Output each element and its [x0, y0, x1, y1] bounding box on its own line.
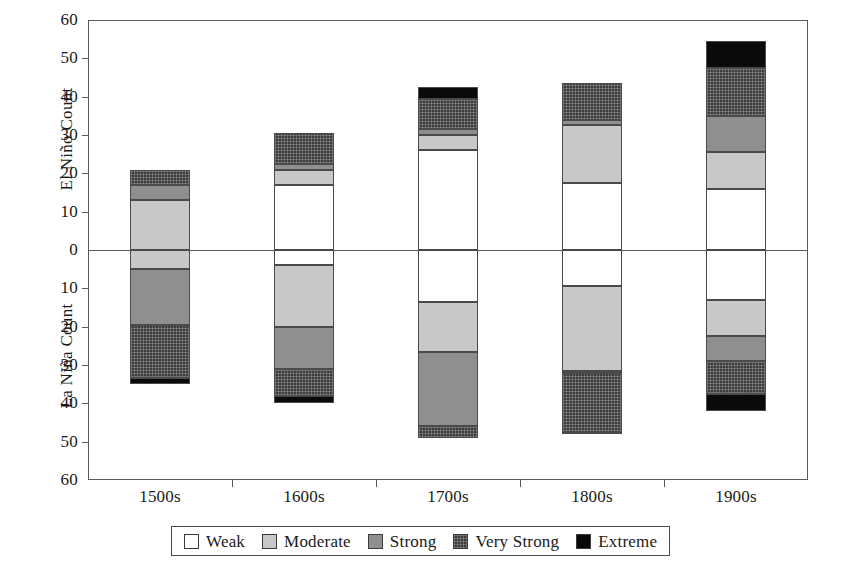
legend-label-verystrong: Very Strong: [475, 533, 559, 550]
y-tick-mark: [82, 135, 89, 136]
bar-segment-el-nino-strong[interactable]: [274, 164, 334, 170]
y-tick-label: 30: [40, 126, 78, 143]
y-tick-label: 0: [40, 241, 78, 258]
bar-segment-el-nino-moderate[interactable]: [130, 200, 190, 250]
bar-segment-la-nina-weak[interactable]: [706, 250, 766, 300]
y-tick-mark: [82, 327, 89, 328]
bar-column-1500s[interactable]: [130, 20, 190, 480]
bar-segment-el-nino-strong[interactable]: [418, 129, 478, 135]
y-tick-label: 20: [40, 164, 78, 181]
y-tick-label: 40: [40, 88, 78, 105]
chart-canvas: El Niño Count La Niña Count 605040302010…: [0, 0, 846, 576]
x-tick-label-1800s: 1800s: [532, 487, 652, 507]
bar-segment-el-nino-verystrong[interactable]: [706, 68, 766, 116]
bar-segment-el-nino-strong[interactable]: [562, 120, 622, 126]
bar-segment-la-nina-verystrong[interactable]: [274, 369, 334, 396]
legend-entry-moderate[interactable]: Moderate: [262, 533, 351, 550]
legend-label-extreme: Extreme: [598, 533, 657, 550]
bar-segment-la-nina-weak[interactable]: [562, 250, 622, 286]
legend-swatch-weak-icon: [184, 534, 199, 549]
bar-segment-la-nina-extreme[interactable]: [274, 396, 334, 404]
x-tick-mark: [376, 480, 377, 487]
y-tick-label: 60: [40, 11, 78, 28]
bar-segment-el-nino-verystrong[interactable]: [130, 170, 190, 185]
bar-segment-la-nina-verystrong[interactable]: [418, 426, 478, 438]
bar-segment-el-nino-weak[interactable]: [418, 150, 478, 250]
y-tick-label: 30: [40, 356, 78, 373]
bar-segment-la-nina-verystrong[interactable]: [130, 325, 190, 379]
bar-segment-el-nino-verystrong[interactable]: [562, 83, 622, 119]
bar-segment-el-nino-strong[interactable]: [706, 116, 766, 152]
bar-segment-la-nina-extreme[interactable]: [130, 378, 190, 384]
y-tick-mark: [82, 212, 89, 213]
bar-column-1800s[interactable]: [562, 20, 622, 480]
y-tick-label: 60: [40, 471, 78, 488]
y-tick-label: 10: [40, 203, 78, 220]
legend-entry-strong[interactable]: Strong: [368, 533, 437, 550]
y-tick-mark: [82, 403, 89, 404]
bar-segment-el-nino-weak[interactable]: [274, 185, 334, 250]
x-tick-label-1500s: 1500s: [100, 487, 220, 507]
bar-segment-la-nina-weak[interactable]: [274, 250, 334, 265]
y-tick-mark: [82, 365, 89, 366]
bar-column-1900s[interactable]: [706, 20, 766, 480]
y-tick-label: 10: [40, 279, 78, 296]
y-tick-mark: [82, 173, 89, 174]
bar-segment-la-nina-strong[interactable]: [274, 327, 334, 369]
bar-segment-la-nina-moderate[interactable]: [418, 302, 478, 352]
bar-segment-la-nina-extreme[interactable]: [706, 394, 766, 411]
bar-segment-el-nino-verystrong[interactable]: [418, 99, 478, 130]
legend-label-strong: Strong: [390, 533, 437, 550]
bar-segment-el-nino-weak[interactable]: [562, 183, 622, 250]
legend-entry-weak[interactable]: Weak: [184, 533, 245, 550]
legend-label-moderate: Moderate: [284, 533, 351, 550]
legend-entry-verystrong[interactable]: Very Strong: [453, 533, 559, 550]
legend-swatch-extreme-icon: [576, 534, 591, 549]
legend-entry-extreme[interactable]: Extreme: [576, 533, 657, 550]
y-tick-label: 40: [40, 394, 78, 411]
bar-segment-la-nina-moderate[interactable]: [130, 250, 190, 269]
bar-segment-la-nina-weak[interactable]: [418, 250, 478, 302]
bar-segment-el-nino-verystrong[interactable]: [274, 133, 334, 164]
x-tick-label-1600s: 1600s: [244, 487, 364, 507]
bar-segment-el-nino-extreme[interactable]: [418, 87, 478, 99]
bar-segment-la-nina-verystrong[interactable]: [562, 373, 622, 432]
legend-swatch-strong-icon: [368, 534, 383, 549]
y-tick-label: 20: [40, 318, 78, 335]
bar-column-1600s[interactable]: [274, 20, 334, 480]
y-tick-mark: [82, 97, 89, 98]
bar-segment-la-nina-strong[interactable]: [418, 352, 478, 427]
legend-swatch-moderate-icon: [262, 534, 277, 549]
y-tick-label: 50: [40, 433, 78, 450]
bar-segment-el-nino-strong[interactable]: [130, 185, 190, 200]
x-tick-mark: [664, 480, 665, 487]
bar-segment-la-nina-strong[interactable]: [130, 269, 190, 325]
x-tick-label-1700s: 1700s: [388, 487, 508, 507]
bar-segment-la-nina-verystrong[interactable]: [706, 361, 766, 394]
x-tick-label-1900s: 1900s: [676, 487, 796, 507]
bar-segment-el-nino-moderate[interactable]: [274, 170, 334, 185]
bar-segment-el-nino-moderate[interactable]: [562, 125, 622, 183]
y-tick-mark: [82, 288, 89, 289]
y-tick-label: 50: [40, 49, 78, 66]
x-tick-mark: [232, 480, 233, 487]
y-tick-mark: [82, 58, 89, 59]
bar-segment-el-nino-extreme[interactable]: [706, 41, 766, 68]
bar-segment-la-nina-extreme[interactable]: [562, 432, 622, 434]
bar-column-1700s[interactable]: [418, 20, 478, 480]
legend-label-weak: Weak: [206, 533, 245, 550]
chart-legend: WeakModerateStrongVery StrongExtreme: [171, 526, 670, 556]
bar-segment-la-nina-strong[interactable]: [706, 336, 766, 361]
legend-swatch-verystrong-icon: [453, 534, 468, 549]
bar-segment-el-nino-moderate[interactable]: [706, 152, 766, 188]
bar-segment-el-nino-weak[interactable]: [706, 189, 766, 250]
bar-segment-la-nina-moderate[interactable]: [274, 265, 334, 326]
y-tick-mark: [82, 442, 89, 443]
bar-segment-el-nino-moderate[interactable]: [418, 135, 478, 150]
bar-segment-la-nina-moderate[interactable]: [562, 286, 622, 370]
x-tick-mark: [520, 480, 521, 487]
bar-segment-la-nina-moderate[interactable]: [706, 300, 766, 336]
